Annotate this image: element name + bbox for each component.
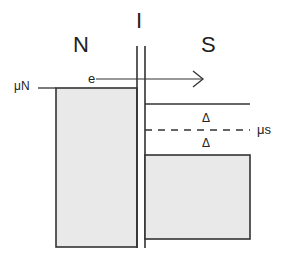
- gap-upper-label: Δ: [202, 112, 210, 124]
- region-label-i: I: [136, 10, 142, 32]
- mu-n-label: μN: [14, 80, 30, 92]
- diagram-graphics: [0, 0, 285, 264]
- nis-junction-diagram: N I S μN e Δ Δ μs: [0, 0, 285, 264]
- region-label-s: S: [201, 34, 216, 56]
- gap-lower-label: Δ: [202, 137, 210, 149]
- normal-metal-filled-states: [56, 88, 137, 247]
- electron-label: e: [88, 72, 95, 85]
- region-label-n: N: [73, 34, 89, 56]
- superconductor-filled-states: [145, 155, 250, 239]
- mu-s-label: μs: [257, 123, 271, 136]
